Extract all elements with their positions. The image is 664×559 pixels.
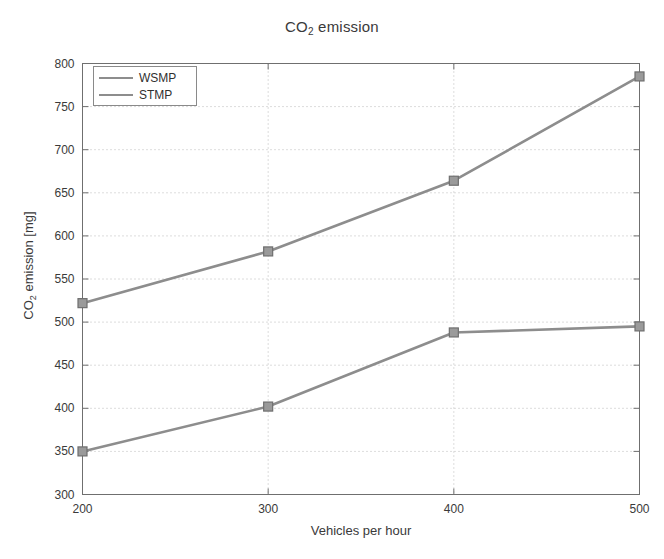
y-tick-label: 750 xyxy=(54,100,74,114)
data-point-marker-stmp xyxy=(635,72,644,81)
legend-item-stmp: STMP xyxy=(99,86,172,104)
y-tick-label: 500 xyxy=(54,315,74,329)
x-axis-ticks: 200300400500 xyxy=(72,64,649,516)
y-tick-label: 650 xyxy=(54,186,74,200)
legend-item-wsmp: WSMP xyxy=(99,69,176,87)
y-tick-label: 700 xyxy=(54,143,74,157)
data-point-marker-wsmp xyxy=(264,402,273,411)
y-tick-label: 400 xyxy=(54,401,74,415)
x-tick-label: 400 xyxy=(444,502,464,516)
data-point-marker-wsmp xyxy=(635,322,644,331)
y-tick-label: 350 xyxy=(54,444,74,458)
legend-label-stmp: STMP xyxy=(139,89,172,101)
y-tick-label: 600 xyxy=(54,229,74,243)
legend: WSMP STMP xyxy=(93,66,197,106)
data-point-marker-wsmp xyxy=(449,328,458,337)
y-tick-label: 800 xyxy=(54,57,74,71)
data-series-layer xyxy=(78,72,644,456)
y-tick-label: 450 xyxy=(54,358,74,372)
legend-swatch-wsmp xyxy=(99,77,133,79)
y-tick-label: 300 xyxy=(54,488,74,502)
series-line-wsmp xyxy=(83,326,640,451)
data-point-marker-stmp xyxy=(449,176,458,185)
legend-swatch-stmp xyxy=(99,94,133,96)
series-line-stmp xyxy=(83,76,640,303)
data-point-marker-stmp xyxy=(78,299,87,308)
figure-container: CO2 emission CO2 emission [mg] Vehicles … xyxy=(0,0,664,559)
y-tick-label: 550 xyxy=(54,272,74,286)
data-point-marker-wsmp xyxy=(78,447,87,456)
x-tick-label: 200 xyxy=(72,502,92,516)
data-point-marker-stmp xyxy=(264,247,273,256)
legend-label-wsmp: WSMP xyxy=(139,72,176,84)
x-tick-label: 300 xyxy=(258,502,278,516)
x-tick-label: 500 xyxy=(629,502,649,516)
